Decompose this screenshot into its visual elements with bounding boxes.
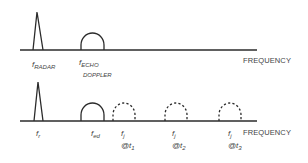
jammer-freq-label-t3: fj@t3 bbox=[228, 129, 242, 153]
bottom-frequency-axis-label: FREQUENCY bbox=[243, 128, 291, 137]
jammer-dome-t2 bbox=[165, 103, 187, 121]
jammer-freq-label-t2: fj@t2 bbox=[172, 129, 186, 153]
echo-doppler-frequency-label: fECHODOPPLER bbox=[79, 58, 112, 80]
top-frequency-axis-label: FREQUENCY bbox=[243, 56, 291, 65]
radar-frequency-label: fRADAR bbox=[32, 60, 55, 72]
bottom-echo-doppler-dome bbox=[81, 103, 104, 121]
jammer-freq-label-t1: fj@t1 bbox=[121, 129, 135, 153]
spectrum-diagram bbox=[0, 0, 308, 163]
echo-doppler-freq-label-fed: fed bbox=[91, 129, 100, 141]
bottom-spectrum-graphics bbox=[20, 82, 257, 121]
jammer-dome-t1 bbox=[113, 103, 135, 121]
jammer-dome-t3 bbox=[219, 103, 241, 121]
bottom-radar-spike bbox=[34, 82, 43, 121]
radar-freq-label-fr: fr bbox=[36, 129, 40, 141]
top-radar-spike bbox=[33, 12, 43, 50]
top-echo-doppler-dome bbox=[81, 33, 104, 50]
top-spectrum-graphics bbox=[20, 12, 257, 50]
